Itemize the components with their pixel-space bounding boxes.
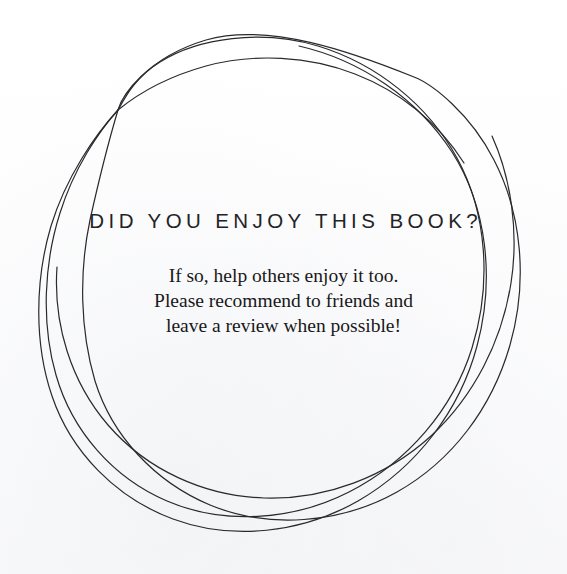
page-title: DID YOU ENJOY THIS BOOK? [0,209,567,233]
message-content: DID YOU ENJOY THIS BOOK? If so, help oth… [0,0,567,574]
message-line: leave a review when possible! [0,313,567,338]
message-line: If so, help others enjoy it too. [0,263,567,288]
message-body: If so, help others enjoy it too. Please … [0,263,567,339]
message-line: Please recommend to friends and [0,288,567,313]
greeting-page: DID YOU ENJOY THIS BOOK? If so, help oth… [0,0,567,574]
